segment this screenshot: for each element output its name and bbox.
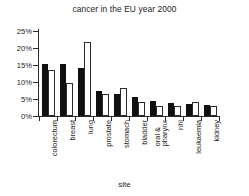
x-axis-tick — [147, 117, 148, 121]
x-axis-title: site — [0, 180, 249, 189]
bar-series-2 — [102, 94, 109, 116]
bar-group — [42, 31, 55, 116]
x-axis-tick — [75, 117, 76, 121]
bar-series-2 — [192, 102, 199, 116]
y-axis-labels: 0%5%10%15%20%25% — [0, 0, 32, 196]
x-axis-tick — [129, 117, 130, 121]
bar-group — [60, 31, 73, 116]
x-axis-category-label: lung — [87, 120, 94, 134]
x-axis-tick — [201, 117, 202, 121]
bar-group — [96, 31, 109, 116]
plot-area — [39, 31, 219, 116]
x-axis-tick — [57, 117, 58, 121]
x-axis-tick — [219, 117, 220, 121]
bar-group — [78, 31, 91, 116]
bar-group — [114, 31, 127, 116]
x-axis-tick — [165, 117, 166, 121]
x-axis-category-label: bladder — [141, 120, 148, 145]
bar-series-2 — [120, 88, 127, 116]
bar-group — [132, 31, 145, 116]
bar-series-2 — [84, 42, 91, 116]
y-axis-tick — [33, 116, 38, 117]
x-axis-tick — [183, 117, 184, 121]
x-axis-category-label: leukaemia — [195, 120, 202, 154]
bar-series-2 — [48, 70, 55, 116]
x-axis-category-label: nhl — [177, 120, 184, 130]
x-axis-category-label: prostate — [105, 120, 112, 147]
y-axis-tick-label: 10% — [2, 78, 32, 87]
y-axis-tick-label: 20% — [2, 44, 32, 53]
y-axis-tick-label: 15% — [2, 61, 32, 70]
bar-group — [186, 31, 199, 116]
x-axis-category-label: stomach — [123, 120, 130, 148]
bar-group — [150, 31, 163, 116]
x-axis-tick — [39, 117, 40, 121]
y-axis-tick-label: 25% — [2, 27, 32, 36]
bar-series-2 — [210, 106, 217, 116]
y-axis-tick — [33, 48, 38, 49]
y-axis-tick — [33, 99, 38, 100]
bar-chart: cancer in the EU year 2000 0%5%10%15%20%… — [0, 0, 249, 196]
bar-group — [168, 31, 181, 116]
x-axis-tick — [111, 117, 112, 121]
y-axis-tick-label: 5% — [2, 95, 32, 104]
x-axis-category-label: oral &pharynx — [154, 120, 169, 146]
x-axis-category-label: kidney — [213, 120, 220, 141]
x-axis-tick — [93, 117, 94, 121]
y-axis-tick — [33, 82, 38, 83]
chart-title: cancer in the EU year 2000 — [0, 4, 249, 14]
y-axis-tick — [33, 65, 38, 66]
bar-series-2 — [66, 83, 73, 116]
x-axis-category-label: breast — [69, 120, 76, 141]
bar-series-2 — [138, 102, 145, 116]
x-axis-category-label: colorectum — [51, 120, 58, 156]
y-axis-tick-label: 0% — [2, 112, 32, 121]
bar-series-2 — [156, 106, 163, 116]
y-axis-tick — [33, 31, 38, 32]
bar-series-2 — [174, 106, 181, 116]
bar-group — [204, 31, 217, 116]
